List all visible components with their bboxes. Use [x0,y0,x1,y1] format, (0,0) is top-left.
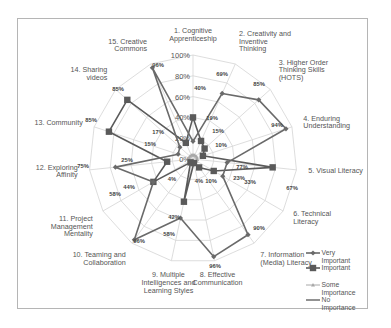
square-marker [201,145,207,151]
axis-label: 7. Information(Media) Literacy [260,250,312,267]
legend-label: VeryImportant [322,249,351,265]
value-label: 25% [121,157,133,163]
value-label: 40% [194,85,206,91]
value-label: 85% [112,86,124,92]
axis-label: 12. ExploringAffinity [36,163,78,180]
axis-label: 1. CognitiveApprenticeship [169,26,217,43]
value-label: 94% [271,122,283,128]
radar-chart: 0%20%40%60%80%100% 1. CognitiveApprentic… [0,0,391,328]
legend-item[interactable]: SomeImportance [306,281,356,297]
axis-label: 13. Community [34,118,83,127]
value-label: 85% [85,117,97,123]
square-marker [183,140,189,146]
square-marker [190,114,196,120]
value-label: 96% [133,238,145,244]
square-marker [106,128,112,134]
value-label: 85% [253,81,265,87]
square-marker [200,153,206,159]
axis-label: 11. ProjectManagementMentality [51,214,93,238]
square-marker [269,164,275,170]
legend-label: SomeImportance [322,281,356,297]
legend-label: NoImportance [322,296,356,312]
square-marker [124,97,130,103]
grid-spoke [193,64,235,159]
value-label: 17% [152,129,164,135]
value-label: 58% [109,191,121,197]
legend-label: Important [322,264,351,272]
diamond-marker [220,174,225,179]
axis-label: 5. Visual Literacy [308,166,363,175]
value-label: 10% [205,178,217,184]
value-label: 75% [77,163,89,169]
value-label: 15% [144,141,156,147]
axis-label: 3. Higher OrderThinking Skills(HOTS) [279,58,329,82]
radial-tick-label: 60% [175,93,190,102]
axis-label: 9. MultipleIntelligences andLearning Sty… [141,270,195,294]
radial-tick-label: 100% [171,51,191,60]
axis-label: 8. EffectiveCommunication [193,270,243,287]
axis-label: 10. Teaming andCollaboration [73,250,126,267]
value-label: 96% [209,263,221,269]
axis-label: 2. Creativity andInventiveThinking [239,29,291,53]
value-label: 77% [236,164,248,170]
square-marker [198,138,204,144]
value-label: 33% [244,179,256,185]
legend: VeryImportantImportantSomeImportanceNoIm… [306,249,356,312]
diamond-marker [310,250,315,255]
legend-item[interactable]: Important [306,264,350,272]
value-label: 15% [212,128,224,134]
value-label: 58% [163,231,175,237]
diamond-marker [113,165,118,170]
axis-label: 4. EnduringUnderstanding [303,114,350,131]
axis-label: 14. Sharingvideos [71,65,108,82]
value-label: 90% [253,225,265,231]
value-label: 44% [123,184,135,190]
square-marker [164,159,170,165]
value-label: 42% [168,214,180,220]
legend-item[interactable]: NoImportance [306,296,356,312]
axis-label: 15. CreativeCommons [108,37,147,54]
value-label: 69% [216,71,228,77]
axis-label: 6. TechnicalLiteracy [293,209,331,226]
value-label: 10% [215,142,227,148]
square-marker [187,159,193,165]
legend-item[interactable]: VeryImportant [306,249,350,265]
value-label: 4% [195,178,203,184]
radial-tick-label: 80% [175,72,190,81]
value-label: 67% [286,185,298,191]
value-label: 96% [152,62,164,68]
square-marker [310,265,316,271]
value-label: 4% [168,176,176,182]
square-marker [181,199,187,205]
value-label: 19% [206,115,218,121]
value-label: 23% [233,175,245,181]
square-marker [211,168,217,174]
